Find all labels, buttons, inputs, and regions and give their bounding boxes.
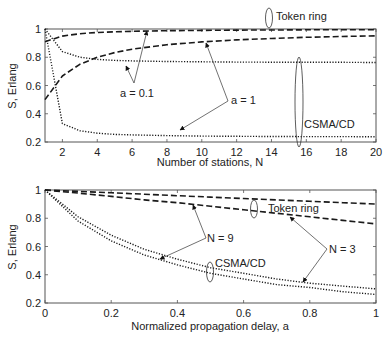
y-tick-label: 0.6	[26, 80, 41, 92]
x-tick-label: 20	[370, 146, 382, 158]
y-tick-label: 0.4	[26, 108, 41, 120]
a-1-arrow-1	[206, 43, 228, 101]
bottom-plot: 0.20.40.60.81 00.20.40.60.81 S, Erlang N…	[6, 184, 379, 332]
series-line	[45, 30, 376, 42]
y-tick-label: 0.2	[26, 136, 41, 148]
y-tick-label: 0.8	[26, 51, 41, 63]
bottom-y-axis-label: S, Erlang	[6, 224, 18, 269]
top-y-axis-label: S, Erlang	[6, 63, 18, 108]
x-tick-label: 0.4	[170, 307, 185, 319]
y-tick-label: 0.4	[26, 269, 41, 281]
top-x-ticks: 2468101214161820	[59, 29, 382, 158]
a-0.1-arrow-1	[126, 66, 134, 83]
figure: 0.20.40.60.81 2468101214161820 S, Erlang…	[0, 0, 391, 347]
token-ring-ellipse-bottom	[251, 200, 258, 218]
token-ring-label-bottom: Token ring	[268, 202, 319, 214]
bottom-x-axis-label: Normalized propagation delay, a	[131, 320, 289, 332]
y-tick-label: 0.8	[26, 212, 41, 224]
n-9-label: N = 9	[207, 232, 234, 244]
a-1-arrow-2	[180, 101, 228, 130]
x-tick-label: 6	[129, 146, 135, 158]
n-3-arrow-2	[303, 249, 327, 282]
x-tick-label: 0	[42, 307, 48, 319]
csma-cd-label-top: CSMA/CD	[304, 118, 355, 130]
top-x-axis-label: Number of stations, N	[157, 156, 263, 168]
y-tick-label: 0.2	[26, 297, 41, 309]
series-line	[45, 190, 376, 204]
n-9-arrow-1	[193, 205, 206, 238]
x-tick-label: 0.8	[302, 307, 317, 319]
a-0.1-arrow-2	[134, 31, 147, 83]
x-tick-label: 2	[59, 146, 65, 158]
a-1-label: a = 1	[231, 94, 256, 106]
token-ring-ellipse-top	[266, 8, 273, 28]
series-line	[45, 36, 376, 100]
n-9-arrow-2	[160, 238, 206, 259]
token-ring-label-top: Token ring	[276, 10, 327, 22]
y-tick-label: 1	[35, 23, 41, 35]
x-tick-label: 0.6	[236, 307, 251, 319]
top-plot: 0.20.40.60.81 2468101214161820 S, Erlang…	[6, 8, 382, 168]
csma-cd-label-bottom: CSMA/CD	[215, 257, 266, 269]
n-3-label: N = 3	[329, 243, 356, 255]
y-tick-label: 1	[35, 184, 41, 196]
x-tick-label: 1	[373, 307, 379, 319]
y-tick-label: 0.6	[26, 241, 41, 253]
a-0.1-label: a = 0.1	[120, 87, 154, 99]
x-tick-label: 16	[300, 146, 312, 158]
n-3-arrow-1	[290, 217, 327, 249]
x-tick-label: 4	[94, 146, 100, 158]
x-tick-label: 18	[335, 146, 347, 158]
x-tick-label: 0.2	[104, 307, 119, 319]
x-tick-label: 14	[265, 146, 277, 158]
bottom-y-ticks: 0.20.40.60.81	[26, 184, 376, 309]
csma-cd-ellipse-top	[295, 57, 303, 147]
series-line	[45, 190, 376, 224]
